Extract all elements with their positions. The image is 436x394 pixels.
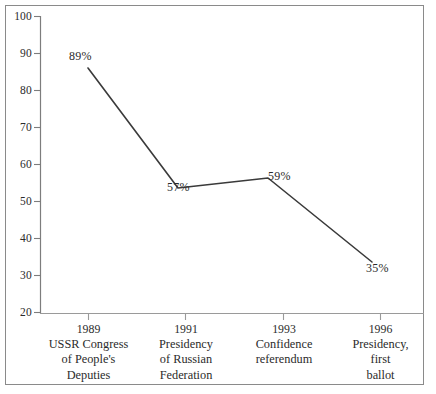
data-series-line — [88, 68, 372, 262]
x-category-line: first — [330, 352, 431, 367]
data-point-label-1996: 35% — [366, 262, 389, 274]
y-tick-label: 80 — [2, 85, 32, 97]
x-category-1993: 1993 Confidence referendum — [229, 322, 339, 368]
y-tick-label: 50 — [2, 196, 32, 208]
x-category-line: of Russian — [131, 352, 241, 367]
x-category-line: Federation — [131, 368, 241, 383]
chart-figure: 100 90 80 70 60 50 40 30 20 89% 57% 59% … — [0, 0, 436, 394]
x-category-year: 1991 — [131, 322, 241, 337]
x-category-line: Presidency, — [330, 337, 431, 352]
y-tick-label: 60 — [2, 159, 32, 171]
y-tick-label: 100 — [2, 11, 32, 23]
x-axis-ticks — [89, 314, 381, 321]
x-category-1991: 1991 Presidency of Russian Federation — [131, 322, 241, 383]
y-axis-ticks — [34, 17, 41, 313]
x-category-line: Presidency — [131, 337, 241, 352]
x-category-line: referendum — [229, 352, 339, 367]
y-tick-label: 90 — [2, 48, 32, 60]
x-category-line: Confidence — [229, 337, 339, 352]
y-tick-label: 30 — [2, 270, 32, 282]
y-tick-label: 70 — [2, 122, 32, 134]
y-tick-label: 20 — [2, 307, 32, 319]
x-category-1996: 1996 Presidency, first ballot — [330, 322, 431, 383]
data-point-label-1989: 89% — [69, 50, 92, 62]
x-category-year: 1996 — [330, 322, 431, 337]
data-point-label-1991: 57% — [167, 181, 190, 193]
x-category-line: ballot — [330, 368, 431, 383]
y-tick-label: 40 — [2, 233, 32, 245]
x-category-year: 1993 — [229, 322, 339, 337]
data-point-label-1993: 59% — [268, 170, 291, 182]
